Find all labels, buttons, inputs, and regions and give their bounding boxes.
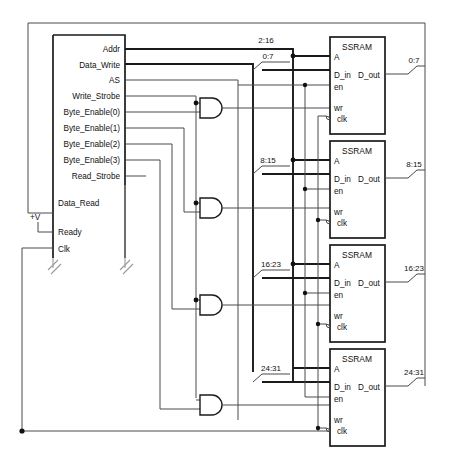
- ssram-1-pin-d-in: D_in: [334, 71, 351, 80]
- ssram-3-pin-wr: wr: [333, 312, 343, 321]
- junction-dot: [19, 428, 24, 433]
- d-in-label-8-15: 8:15: [260, 156, 276, 165]
- junction-dot: [194, 298, 199, 303]
- pin-label-data-read: Data_Read: [58, 199, 100, 208]
- ssram-2-pin-clk: clk: [337, 219, 348, 228]
- pin-label-addr: Addr: [103, 45, 121, 54]
- ssram-4-pin-d-out: D_out: [358, 383, 381, 392]
- junction-dot: [303, 187, 307, 191]
- pin-label-byte-enable-1: Byte_Enable(1): [64, 124, 121, 133]
- pin-label-byte-enable-2: Byte_Enable(2): [64, 140, 121, 149]
- ground-slash-right: [120, 185, 133, 274]
- junction-dot: [316, 426, 320, 430]
- as-wire: [125, 80, 238, 420]
- addr-taps: [291, 54, 330, 368]
- ssram-2-pin-a: A: [334, 157, 340, 166]
- ssram-1-out-label: 0:7: [408, 56, 420, 65]
- d-in-label-24-31: 24:31: [261, 364, 282, 373]
- ssram-2-out-label: 8:15: [406, 160, 422, 169]
- ssram-4-pin-en: en: [334, 395, 344, 404]
- junction-dot: [316, 218, 320, 222]
- data-write-bus-wire: [125, 64, 253, 372]
- and-gate-2: [200, 198, 330, 218]
- ssram-4-title: SSRAM: [342, 354, 372, 364]
- en-distribution-bus: [238, 83, 330, 397]
- clk-pin-wire: [22, 248, 53, 431]
- junction-dot: [194, 101, 199, 106]
- d-in-label-0-7: 0:7: [262, 52, 274, 61]
- supply-label: +V: [30, 213, 41, 222]
- byte-enable-1-wire: [125, 128, 200, 212]
- junction-dot: [291, 262, 296, 267]
- pin-label-byte-enable-0: Byte_Enable(0): [64, 108, 121, 117]
- pin-label-clk: Clk: [58, 245, 71, 254]
- ssram-4-out-label: 24:31: [404, 368, 425, 377]
- ssram-1-pin-en: en: [334, 83, 344, 92]
- ssram-1-title: SSRAM: [342, 42, 372, 52]
- addr-bus-label: 2:16: [258, 36, 274, 45]
- junction-dot: [194, 201, 199, 206]
- write-strobe-rail: [125, 96, 200, 400]
- ssram-1-pin-a: A: [334, 53, 340, 62]
- ssram-3-pin-d-in: D_in: [334, 279, 351, 288]
- pin-label-byte-enable-3: Byte_Enable(3): [64, 156, 121, 165]
- ssram-2-pin-wr: wr: [333, 208, 343, 217]
- ssram-3-pin-en: en: [334, 291, 344, 300]
- junction-dot: [291, 158, 296, 163]
- and-gate-4: [200, 395, 330, 415]
- ssram-3-out-label: 16:23: [404, 264, 425, 273]
- junction-dot: [316, 322, 320, 326]
- pin-label-write-strobe: Write_Strobe: [72, 92, 120, 101]
- ssram-block-1: SSRAM A D_in D_out en wr clk 0:7: [326, 37, 425, 134]
- ssram-3-pin-d-out: D_out: [358, 279, 381, 288]
- ssram-2-title: SSRAM: [342, 146, 372, 156]
- junction-dot: [303, 83, 307, 87]
- interface-block-pin-labels: Addr Data_Write AS Write_Strobe Byte_Ena…: [30, 45, 121, 254]
- ssram-3-pin-clk: clk: [337, 323, 348, 332]
- ssram-4-pin-wr: wr: [333, 416, 343, 425]
- circuit-diagram-canvas: Addr Data_Write AS Write_Strobe Byte_Ena…: [0, 0, 451, 453]
- d-in-label-16-23: 16:23: [261, 260, 282, 269]
- ground-slash-left: [48, 258, 61, 274]
- byte-enable-3-wire: [125, 160, 200, 409]
- ssram-2-pin-d-out: D_out: [358, 175, 381, 184]
- pin-label-as: AS: [109, 76, 120, 85]
- pin-label-read-strobe: Read_Strobe: [72, 172, 121, 181]
- byte-enable-2-wire: [125, 144, 200, 309]
- ssram-block-4: SSRAM A D_in D_out en wr clk 24:31: [326, 349, 425, 446]
- pin-label-data-write: Data_Write: [79, 61, 120, 70]
- ssram-2-pin-d-in: D_in: [334, 175, 351, 184]
- and-gate-1: [200, 98, 330, 118]
- ssram-block-2: SSRAM A D_in D_out en wr clk 8:15: [326, 141, 425, 238]
- pin-label-ready: Ready: [58, 228, 83, 237]
- ssram-3-pin-a: A: [334, 261, 340, 270]
- junction-dot: [303, 291, 307, 295]
- junction-dot: [291, 54, 296, 59]
- ssram-block-3: SSRAM A D_in D_out en wr clk 16:23: [326, 245, 425, 342]
- ssram-3-title: SSRAM: [342, 250, 372, 260]
- ssram-1-pin-clk: clk: [337, 115, 348, 124]
- supply-to-ready-wire: [38, 222, 53, 232]
- ssram-4-pin-clk: clk: [337, 427, 348, 436]
- ssram-4-pin-a: A: [334, 365, 340, 374]
- and-gate-3: [200, 295, 330, 315]
- ssram-2-pin-en: en: [334, 187, 344, 196]
- ssram-1-pin-wr: wr: [333, 104, 343, 113]
- ssram-4-pin-d-in: D_in: [334, 383, 351, 392]
- ssram-1-pin-d-out: D_out: [358, 71, 381, 80]
